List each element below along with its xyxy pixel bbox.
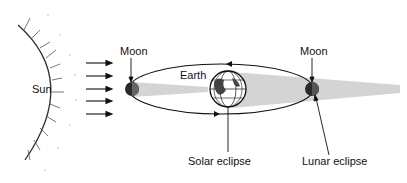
moon-right-label: Moon xyxy=(300,46,328,57)
solar-eclipse-label: Solar eclipse xyxy=(188,156,251,167)
sunlight-arrows xyxy=(86,61,112,117)
moon-left-label: Moon xyxy=(120,46,148,57)
earth-globe-icon xyxy=(210,71,246,107)
eclipse-diagram: Sun Moon Earth Moon Solar eclipse Lunar … xyxy=(0,0,407,183)
lunar-eclipse-label: Lunar eclipse xyxy=(302,156,367,167)
moon-shadow xyxy=(132,82,208,97)
sun-label: Sun xyxy=(32,84,52,95)
earth-label: Earth xyxy=(180,70,206,81)
moon-right-icon xyxy=(305,82,319,96)
moon-left-icon xyxy=(125,82,139,96)
